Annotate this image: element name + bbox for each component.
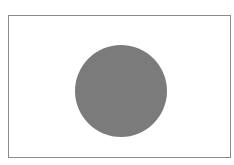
- gray-circle-shape: [75, 45, 167, 137]
